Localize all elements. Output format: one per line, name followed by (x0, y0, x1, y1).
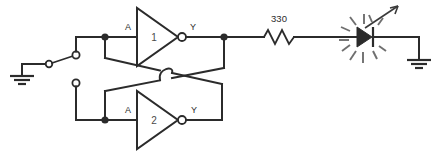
ground-symbol-left (10, 64, 46, 84)
cross-couple-wire-gate2-to-gate1 (105, 37, 222, 120)
switch-terminal-lower[interactable] (72, 79, 79, 86)
gate-2-input-label: A (125, 105, 131, 115)
resistor[interactable]: 330 (224, 13, 357, 44)
gate-2-output-label: Y (191, 105, 197, 115)
spdt-switch[interactable] (46, 37, 105, 120)
ground-symbol-right (407, 37, 431, 68)
junction-dot-gate1-input (101, 33, 108, 40)
led[interactable] (339, 6, 419, 63)
gate-2-number: 2 (151, 115, 157, 126)
resistor-value-label: 330 (271, 13, 287, 24)
circuit-canvas: A 1 Y A 2 Y (0, 0, 439, 158)
wire-hop-crossover (160, 69, 173, 81)
inverter-gate-1[interactable]: A 1 Y (105, 8, 224, 66)
inverter-gate-2[interactable]: A 2 Y (105, 91, 222, 149)
gate-1-number: 1 (151, 32, 157, 43)
switch-terminal-upper[interactable] (72, 51, 79, 58)
circuit-diagram: A 1 Y A 2 Y (0, 0, 439, 158)
junction-dot-gate2-input (101, 116, 108, 123)
gate-1-output-label: Y (190, 22, 196, 32)
gate-1-input-label: A (125, 22, 131, 32)
cross-couple-wire-gate1-to-gate2 (105, 37, 224, 120)
